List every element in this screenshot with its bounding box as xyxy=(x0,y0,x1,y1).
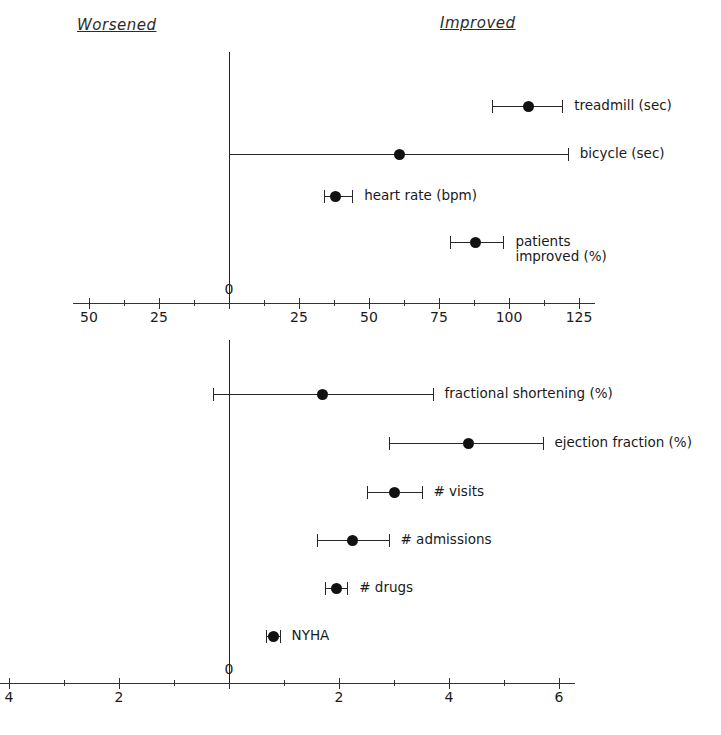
x-tick-major xyxy=(449,678,450,689)
error-bar-cap-low xyxy=(324,190,325,203)
data-point-marker xyxy=(463,438,474,449)
series-label: ejection fraction (%) xyxy=(555,435,692,450)
x-tick-label: 75 xyxy=(414,309,464,325)
x-tick-major xyxy=(89,298,90,309)
x-tick-major xyxy=(439,298,440,309)
series-label: # admissions xyxy=(401,532,492,547)
x-tick-label: 25 xyxy=(274,309,324,325)
error-bar-cap-low xyxy=(317,534,318,547)
data-point-marker xyxy=(330,191,341,202)
error-bar-cap-high xyxy=(568,148,569,161)
error-bar-cap-high xyxy=(562,100,563,113)
x-tick-major xyxy=(9,678,10,689)
error-bar-cap-low xyxy=(492,100,493,113)
x-tick-label: 100 xyxy=(484,309,534,325)
data-point-marker xyxy=(331,583,342,594)
data-point-marker xyxy=(523,101,534,112)
x-tick-major xyxy=(369,298,370,309)
x-tick-major xyxy=(159,298,160,309)
series-row: NYHA xyxy=(0,626,721,648)
x-tick-major xyxy=(509,298,510,309)
series-label: # visits xyxy=(434,484,484,499)
series-row: bicycle (sec) xyxy=(0,144,721,166)
x-tick-minor xyxy=(264,300,265,306)
data-point-marker xyxy=(317,389,328,400)
x-tick-minor xyxy=(404,300,405,306)
series-row: treadmill (sec) xyxy=(0,96,721,118)
series-label: heart rate (bpm) xyxy=(364,188,477,203)
error-bar-cap-high xyxy=(422,486,423,499)
x-tick-major xyxy=(299,298,300,309)
error-bar-cap-high xyxy=(389,534,390,547)
x-tick-minor xyxy=(394,680,395,686)
data-point-marker xyxy=(347,535,358,546)
error-bar-cap-low xyxy=(229,148,230,161)
series-row: heart rate (bpm) xyxy=(0,186,721,208)
error-bar-cap-low xyxy=(325,582,326,595)
data-point-marker xyxy=(268,631,279,642)
error-bar-cap-high xyxy=(543,437,544,450)
x-tick-minor xyxy=(194,300,195,306)
forest-plot-figure: Worsened Improved 50250255075100125tread… xyxy=(0,0,721,735)
data-point-marker xyxy=(389,487,400,498)
error-bar-cap-low xyxy=(450,236,451,249)
series-row: # admissions xyxy=(0,530,721,552)
error-bar-cap-low xyxy=(389,437,390,450)
x-tick-minor xyxy=(544,300,545,306)
x-tick-label: 6 xyxy=(534,689,584,705)
x-tick-major xyxy=(579,298,580,309)
error-bar-cap-low xyxy=(367,486,368,499)
series-row: patients improved (%) xyxy=(0,232,721,254)
error-bar-cap-high xyxy=(347,582,348,595)
x-tick-minor xyxy=(504,680,505,686)
error-bar-cap-high xyxy=(280,630,281,643)
series-label: bicycle (sec) xyxy=(580,146,665,161)
x-tick-label: 4 xyxy=(424,689,474,705)
series-row: ejection fraction (%) xyxy=(0,433,721,455)
error-bar-cap-high xyxy=(433,388,434,401)
series-label: # drugs xyxy=(359,580,413,595)
x-tick-label: 25 xyxy=(134,309,184,325)
zero-reference-line-top xyxy=(229,52,230,303)
x-tick-minor xyxy=(284,680,285,686)
x-tick-label: 50 xyxy=(64,309,114,325)
header-improved: Improved xyxy=(440,14,516,32)
series-row: # drugs xyxy=(0,578,721,600)
x-tick-minor xyxy=(64,680,65,686)
x-tick-label: 4 xyxy=(0,689,34,705)
x-axis-line-bottom xyxy=(0,683,575,684)
x-tick-label: 2 xyxy=(94,689,144,705)
x-tick-minor xyxy=(124,300,125,306)
error-bar-cap-high xyxy=(352,190,353,203)
series-label: NYHA xyxy=(292,628,330,643)
series-row: # visits xyxy=(0,482,721,504)
x-tick-label: 50 xyxy=(344,309,394,325)
error-bar-cap-low xyxy=(213,388,214,401)
data-point-marker xyxy=(470,237,481,248)
x-tick-minor xyxy=(474,300,475,306)
x-tick-label: 2 xyxy=(314,689,364,705)
x-tick-major xyxy=(559,678,560,689)
series-label: fractional shortening (%) xyxy=(445,386,613,401)
header-worsened: Worsened xyxy=(77,16,156,34)
x-tick-minor xyxy=(174,680,175,686)
error-bar-cap-high xyxy=(503,236,504,249)
x-tick-major xyxy=(119,678,120,689)
x-tick-major xyxy=(339,678,340,689)
x-tick-label: 125 xyxy=(554,309,604,325)
x-tick-minor xyxy=(334,300,335,306)
data-point-marker xyxy=(394,149,405,160)
series-label: treadmill (sec) xyxy=(574,98,672,113)
series-row: fractional shortening (%) xyxy=(0,384,721,406)
series-label: patients improved (%) xyxy=(515,234,607,264)
